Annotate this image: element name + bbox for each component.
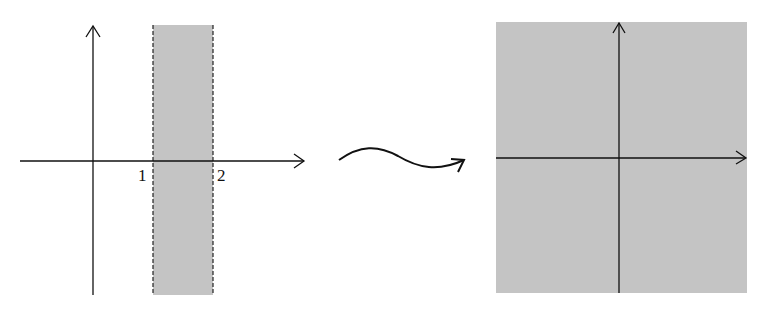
shaded-strip <box>153 25 213 295</box>
diagram-canvas: 1 2 <box>0 0 762 310</box>
mapping-arrow <box>339 148 464 172</box>
right-panel <box>496 22 747 293</box>
left-panel: 1 2 <box>20 25 304 295</box>
tick-label-1: 1 <box>138 166 147 185</box>
tick-label-2: 2 <box>217 166 226 185</box>
wavy-arrow-icon <box>339 148 464 167</box>
